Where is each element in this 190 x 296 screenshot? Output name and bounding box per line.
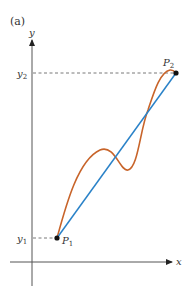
x-axis-label: x	[176, 256, 182, 267]
secant-line	[57, 73, 176, 238]
diagram-canvas: (a) y x y2 y1 P1 P2	[0, 0, 190, 296]
y2-label: y2	[16, 68, 27, 81]
panel-label: (a)	[10, 15, 25, 28]
y1-label: y1	[16, 233, 27, 246]
point-p1	[54, 235, 59, 240]
p2-label: P2	[162, 57, 174, 70]
p1-label: P1	[61, 235, 73, 248]
point-p2	[173, 70, 178, 75]
y-axis-label: y	[28, 27, 35, 38]
